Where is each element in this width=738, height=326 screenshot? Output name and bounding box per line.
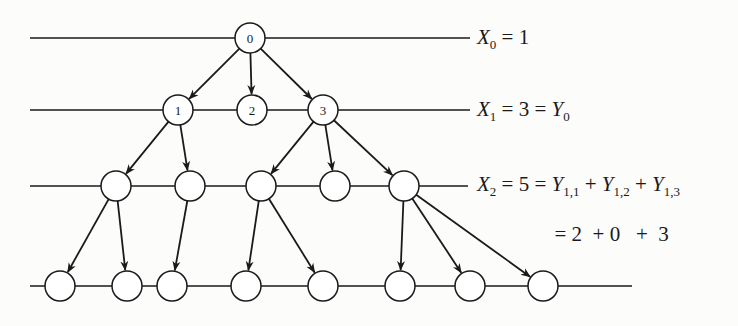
- node-label: 0: [247, 31, 254, 46]
- tree-node: [389, 171, 419, 201]
- edge-arrow: [126, 122, 168, 174]
- tree-node: [45, 271, 75, 301]
- edge-arrow: [334, 120, 392, 175]
- edge-arrow: [401, 201, 404, 270]
- tree-node: 2: [237, 95, 267, 125]
- tree-node: [528, 271, 558, 301]
- label-x1: X1 = 3 = Y0: [477, 97, 570, 125]
- edge-arrow: [180, 125, 187, 170]
- edge-arrow: [68, 199, 109, 272]
- edge-arrow: [175, 201, 188, 270]
- tree-node: [308, 271, 338, 301]
- nodes: 0123: [45, 23, 558, 301]
- tree-node: [320, 171, 350, 201]
- tree-node: 1: [163, 95, 193, 125]
- tree-node: 3: [308, 95, 338, 125]
- edge-arrow: [261, 49, 312, 99]
- branching-tree: 0123: [0, 0, 738, 326]
- edges: [68, 49, 530, 277]
- tree-node: [157, 271, 187, 301]
- tree-node: [246, 171, 276, 201]
- label-x2-values: = 2 + 0 + 3: [544, 197, 669, 247]
- node-label: 2: [249, 103, 256, 118]
- tree-node: [231, 271, 261, 301]
- label-x0: X0 = 1: [477, 25, 529, 53]
- edge-arrow: [416, 195, 530, 277]
- tree-node: 0: [235, 23, 265, 53]
- tree-node: [385, 271, 415, 301]
- tree-node: [455, 271, 485, 301]
- tree-node: [175, 171, 205, 201]
- edge-arrow: [189, 49, 239, 99]
- edge-arrow: [325, 125, 332, 170]
- node-label: 1: [175, 103, 182, 118]
- tree-node: [112, 271, 142, 301]
- edge-arrow: [248, 201, 258, 270]
- node-label: 3: [320, 103, 327, 118]
- edge-arrow: [118, 201, 126, 270]
- tree-node: [101, 171, 131, 201]
- label-x2: X2 = 5 = Y1,1 + Y1,2 + Y1,3: [477, 172, 680, 200]
- edge-arrow: [250, 53, 251, 94]
- edge-arrow: [271, 122, 313, 174]
- edge-arrow: [269, 199, 315, 273]
